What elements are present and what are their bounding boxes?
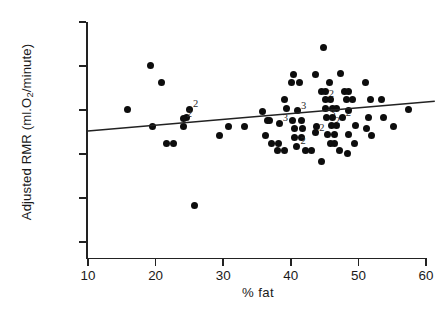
y-tick-mark [79, 241, 86, 243]
data-point [333, 122, 340, 129]
data-point [283, 105, 290, 112]
y-axis-label: Adjusted RMR (ml.O2/minute) [14, 12, 40, 252]
data-point [163, 140, 170, 147]
data-point [259, 108, 266, 115]
overlap-count-label: 3 [283, 112, 288, 123]
x-tick-mark [155, 259, 157, 266]
data-point [170, 140, 177, 147]
data-point [363, 125, 370, 132]
x-tick-label: 10 [63, 268, 113, 283]
data-point [149, 123, 156, 130]
data-point [405, 106, 412, 113]
data-point [296, 79, 303, 86]
data-point [352, 122, 359, 129]
y-tick-mark [79, 197, 86, 199]
x-tick-label: 50 [333, 268, 383, 283]
x-tick-mark [358, 259, 360, 266]
x-tick-label: 30 [198, 268, 248, 283]
data-point [274, 147, 281, 154]
data-point [345, 131, 352, 138]
data-point [216, 132, 223, 139]
data-point [380, 114, 387, 121]
x-tick-mark [222, 259, 224, 266]
data-point [291, 125, 298, 132]
data-point [390, 123, 397, 130]
overlap-count-label: 2 [319, 122, 324, 133]
overlap-count-label: 2 [187, 108, 192, 119]
data-point [276, 120, 283, 127]
y-axis-spine [86, 22, 88, 259]
data-point [368, 132, 375, 139]
data-point [308, 147, 315, 154]
data-point [299, 125, 306, 132]
data-point [124, 106, 131, 113]
y-tick-mark [79, 109, 86, 111]
data-point [275, 140, 282, 147]
data-point [180, 123, 187, 130]
data-point [158, 79, 165, 86]
data-point [225, 123, 232, 130]
data-point [262, 132, 269, 139]
overlap-count-label: 2 [193, 98, 198, 109]
data-point [281, 96, 288, 103]
data-point [351, 140, 358, 147]
y-tick-mark [79, 65, 86, 67]
x-tick-label: 60 [401, 268, 448, 283]
data-point [337, 70, 344, 77]
y-axis-label-post: /minute) [19, 44, 34, 92]
overlap-count-label: 3 [301, 100, 306, 111]
data-point [327, 96, 334, 103]
y-tick-mark [79, 21, 86, 23]
data-point [331, 140, 338, 147]
data-point [318, 158, 325, 165]
data-point [147, 62, 154, 69]
data-point [339, 114, 346, 121]
data-point [349, 96, 356, 103]
data-point [312, 71, 319, 78]
data-point [294, 107, 301, 114]
data-point [241, 123, 248, 130]
data-point [281, 147, 288, 154]
data-point [180, 115, 187, 122]
data-point [365, 114, 372, 121]
x-axis-label: % fat [88, 285, 428, 300]
data-point [191, 202, 198, 209]
x-tick-mark [425, 259, 427, 266]
x-tick-mark [87, 259, 89, 266]
data-point [344, 150, 351, 157]
data-point [345, 107, 352, 114]
data-point [345, 88, 352, 95]
y-tick-mark [79, 153, 86, 155]
data-point [336, 147, 343, 154]
data-point [289, 117, 296, 124]
overlap-count-label: 2 [300, 135, 305, 146]
y-axis-label-pre: Adjusted RMR (ml.O [19, 98, 34, 221]
data-point [326, 79, 333, 86]
data-point [312, 129, 319, 136]
data-point [290, 71, 297, 78]
data-point [378, 96, 385, 103]
data-point [320, 44, 327, 51]
data-point [331, 131, 338, 138]
x-tick-label: 20 [131, 268, 181, 283]
x-tick-mark [290, 259, 292, 266]
y-axis-label-subscript: 2 [24, 92, 35, 97]
x-axis-spine [86, 258, 427, 260]
data-point [288, 79, 295, 86]
data-point [298, 117, 305, 124]
data-point [367, 96, 374, 103]
scatter-plot-figure: Adjusted RMR (ml.O2/minute) 100150200250… [0, 0, 448, 318]
data-point [266, 117, 273, 124]
data-point [293, 143, 300, 150]
x-tick-label: 40 [266, 268, 316, 283]
data-point [362, 79, 369, 86]
